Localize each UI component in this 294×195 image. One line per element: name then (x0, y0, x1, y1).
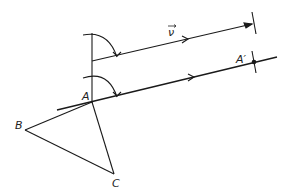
label-C: C (112, 177, 120, 190)
label-B: B (15, 119, 23, 132)
vector-label: ν (168, 26, 174, 39)
segment-BC (25, 130, 114, 174)
segment-AB (25, 102, 92, 130)
vector-v-arrowhead (244, 23, 252, 28)
label-A: A (81, 90, 90, 103)
label-A-prime: A′ (235, 53, 247, 66)
segment-AC (92, 102, 114, 174)
upper-construction-arc (83, 34, 117, 57)
translation-diagram: ν A A′ B C (0, 0, 294, 195)
point-A-prime (252, 60, 257, 65)
vector-end-tick (252, 12, 256, 34)
